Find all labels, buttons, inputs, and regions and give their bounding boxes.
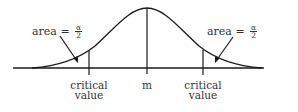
right-alpha-fraction: α 2	[250, 24, 257, 39]
right-area-label: area = α 2	[207, 24, 257, 39]
left-area-arrow	[60, 36, 77, 61]
left-value-text: value	[64, 90, 114, 100]
right-critical-value-label: critical value	[178, 80, 228, 100]
left-area-text: area =	[32, 25, 70, 38]
right-area-arrow	[216, 37, 233, 61]
normal-curve-diagram	[0, 0, 298, 112]
left-alpha-den: 2	[75, 32, 82, 39]
right-area-text: area =	[207, 25, 245, 38]
right-alpha-den: 2	[250, 32, 257, 39]
right-value-text: value	[178, 90, 228, 100]
left-area-label: area = α 2	[32, 24, 82, 39]
mean-label: m	[137, 80, 157, 90]
left-critical-value-label: critical value	[64, 80, 114, 100]
left-alpha-fraction: α 2	[75, 24, 82, 39]
